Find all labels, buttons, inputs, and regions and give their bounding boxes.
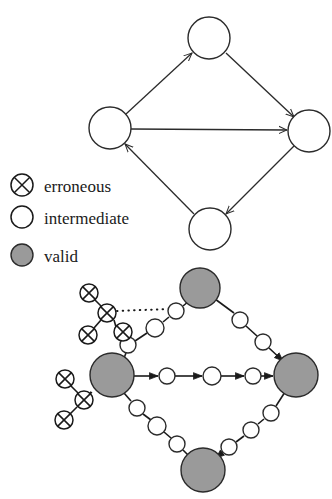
legend-label-erroneous: erroneous [44,177,111,196]
node-erroneous[interactable] [56,370,74,388]
node-intermediate[interactable] [168,303,184,319]
node-erroneous[interactable] [80,284,98,302]
node-intermediate[interactable] [221,439,237,455]
edge-iur1-iur2 [246,326,257,336]
node-intermediate[interactable] [159,368,175,384]
filled-circle-icon [11,244,33,266]
node-erroneous[interactable] [98,304,116,322]
edge-top-to-right [226,53,294,117]
node-erroneous[interactable] [114,323,132,341]
edge-vleft-ibl1 [124,393,131,401]
legend-item-intermediate[interactable]: intermediate [11,206,129,228]
node-intermediate[interactable] [263,405,279,421]
node-erroneous[interactable] [79,326,97,344]
edge-left-to-right [131,129,287,130]
edge-iul1-iul2 [135,333,147,341]
edge-right-to-bottom [226,146,294,214]
top-node-bottom[interactable] [189,208,231,250]
legend-item-valid[interactable]: valid [11,244,78,266]
edge-euhub-iul3-dotted [117,309,168,311]
edge-bottom-to-left [125,144,194,214]
node-intermediate[interactable] [146,319,164,337]
node-intermediate[interactable] [232,312,248,328]
node-intermediate[interactable] [255,334,271,350]
legend-item-erroneous[interactable]: erroneous [11,174,111,196]
edge-left-to-top [126,53,192,114]
edge-vright-ibr1 [276,392,285,406]
top-node-left[interactable] [89,107,131,149]
node-erroneous[interactable] [75,391,93,409]
edge-euhub-eua [95,300,101,306]
node-intermediate[interactable] [129,400,145,416]
node-intermediate[interactable] [169,436,185,452]
edge-euhub-eub [94,320,101,328]
bottom-diagram [55,268,318,492]
edge-vtop-iur1 [215,299,234,313]
top-node-top[interactable] [188,17,230,59]
node-valid-left[interactable] [90,353,134,397]
node-valid-right[interactable] [274,353,318,397]
legend: erroneous intermediate valid [11,174,129,266]
node-intermediate[interactable] [245,368,261,384]
node-intermediate[interactable] [243,422,259,438]
edge-iul2-iul3 [163,317,169,322]
node-erroneous[interactable] [55,411,73,429]
node-intermediate[interactable] [148,417,166,435]
legend-label-valid: valid [44,247,78,266]
node-intermediate[interactable] [203,367,221,385]
edge-ibl2-ibl3 [164,432,171,438]
edge-ibr1-ibr2 [258,419,264,424]
figure-canvas: erroneous intermediate valid [0,0,332,499]
edge-elhub-ela [71,386,78,393]
top-node-right[interactable] [288,110,330,152]
top-diagram-edges [125,53,294,214]
node-valid-bottom[interactable] [181,448,225,492]
legend-label-intermediate: intermediate [44,209,129,228]
bottom-diagram-intermediate-nodes [120,303,279,455]
edge-ibr2-ibr3 [236,436,244,442]
node-valid-top[interactable] [180,268,220,308]
edge-ibl1-ibl2 [143,414,151,420]
empty-circle-icon [11,206,33,228]
edge-elhub-elb [70,407,77,414]
